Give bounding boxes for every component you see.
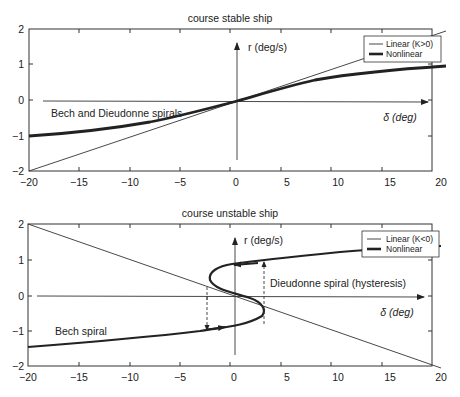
top-xtick: −15 [70,176,88,188]
top-legend-linear: Linear (K>0) [386,39,433,49]
top-ytick: 0 [18,94,24,106]
top-xtick: −10 [121,176,139,188]
bottom-ytick: 0 [18,290,24,302]
bottom-legend-linear: Linear (K<0) [386,234,433,244]
top-xtick: 0 [233,176,239,188]
top-xtick: 10 [332,176,344,188]
bottom-xtick: −5 [174,371,186,383]
bottom-ytick: 1 [18,254,24,266]
bottom-xtick: −15 [70,371,88,383]
bottom-xtick: 20 [435,371,447,383]
top-ylabel: r (deg/s) [248,41,287,53]
top-xlabel: δ (deg) [383,111,416,123]
bottom-xtick: −10 [121,371,139,383]
figure: course stable ship 2 1 0 −1 −2 −20 −15 −… [0,0,460,397]
bottom-annotation-dieudonne: Dieudonne spiral (hysteresis) [270,277,406,289]
top-chart-title: course stable ship [188,12,273,24]
top-chart: course stable ship 2 1 0 −1 −2 −20 −15 −… [12,12,447,188]
bottom-x-axis-arrow [37,296,424,297]
bottom-legend-nonlinear: Nonlinear [386,244,423,254]
bottom-xtick: 0 [231,371,237,383]
top-legend: Linear (K>0) Nonlinear [364,36,441,62]
bottom-xtick: 10 [332,371,344,383]
bottom-xtick: 5 [284,371,290,383]
bottom-annotation-bech: Bech spiral [55,325,107,337]
bottom-xlabel: δ (deg) [380,306,413,318]
bottom-ytick: 2 [18,218,24,230]
bottom-chart: course unstable ship 2 1 0 −1 −2 −20 −15… [12,207,447,383]
top-ytick: −1 [12,130,24,142]
top-ytick: 2 [18,23,24,35]
bottom-ytick: −1 [12,325,24,337]
bottom-chart-title: course unstable ship [182,207,278,219]
top-xtick: 5 [284,176,290,188]
bottom-xtick: −20 [19,371,37,383]
top-legend-nonlinear: Nonlinear [386,49,423,59]
top-xtick: 20 [435,176,447,188]
bottom-legend: Linear (K<0) Nonlinear [362,231,439,257]
bottom-xtick: 15 [384,371,396,383]
top-xtick: −5 [174,176,186,188]
top-xtick: −20 [20,176,38,188]
top-ytick: 1 [18,58,24,70]
bottom-ylabel: r (deg/s) [244,234,283,246]
top-annotation: Bech and Dieudonne spirals [51,107,182,119]
top-xtick: 15 [384,176,396,188]
